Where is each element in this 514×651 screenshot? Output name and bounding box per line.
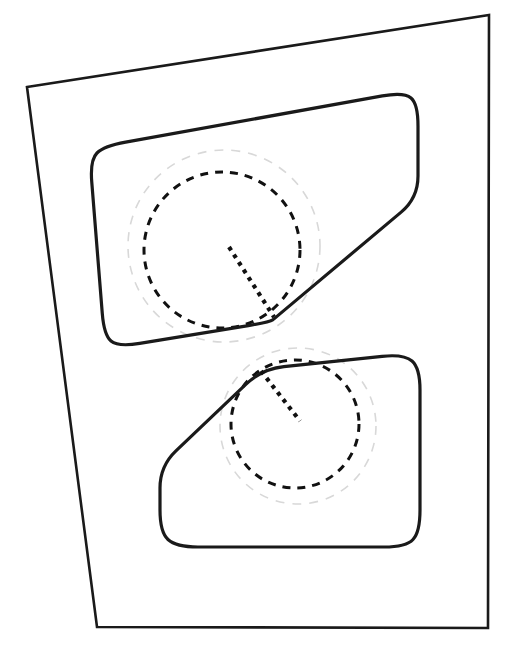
vector-drawing (0, 0, 514, 651)
drawing-canvas (0, 0, 514, 651)
